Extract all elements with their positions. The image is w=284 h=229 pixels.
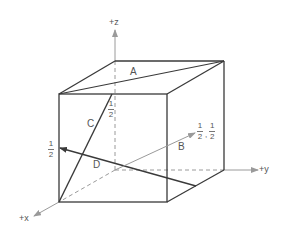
x-axis-label: +x <box>19 214 29 223</box>
fraction-denominator: 2 <box>198 133 202 141</box>
fraction-1: 1 2 <box>197 122 203 141</box>
z-axis-label: +z <box>109 18 119 27</box>
x-axis <box>34 202 59 216</box>
direction-d <box>60 148 196 186</box>
direction-d-endpoint-fraction: 1 2 <box>48 140 54 159</box>
direction-c <box>59 94 112 202</box>
fraction-numerator: 1 <box>198 122 202 130</box>
direction-a-label: A <box>130 67 137 77</box>
cube-diagram <box>0 0 284 229</box>
cube-top-right-edge <box>167 61 224 94</box>
direction-c-endpoint-fraction: 1 2 <box>108 100 114 119</box>
fraction-denominator: 2 <box>210 133 214 141</box>
fraction-numerator: 1 <box>49 140 53 148</box>
direction-d-label: D <box>93 160 100 170</box>
fraction-denominator: 2 <box>49 151 53 159</box>
cube-top-left-edge <box>59 61 115 94</box>
fraction-numerator: 1 <box>210 122 214 130</box>
direction-c-label: C <box>87 119 94 129</box>
fraction-separator: , <box>205 130 207 139</box>
direction-b-endpoint-fractions: 1 2 , 1 2 <box>197 122 215 141</box>
fraction-numerator: 1 <box>109 100 113 108</box>
fraction-2: 1 2 <box>209 122 215 141</box>
direction-b-label: B <box>178 142 185 152</box>
y-axis-label: +y <box>259 165 269 174</box>
fraction-denominator: 2 <box>109 111 113 119</box>
direction-a <box>59 61 224 94</box>
